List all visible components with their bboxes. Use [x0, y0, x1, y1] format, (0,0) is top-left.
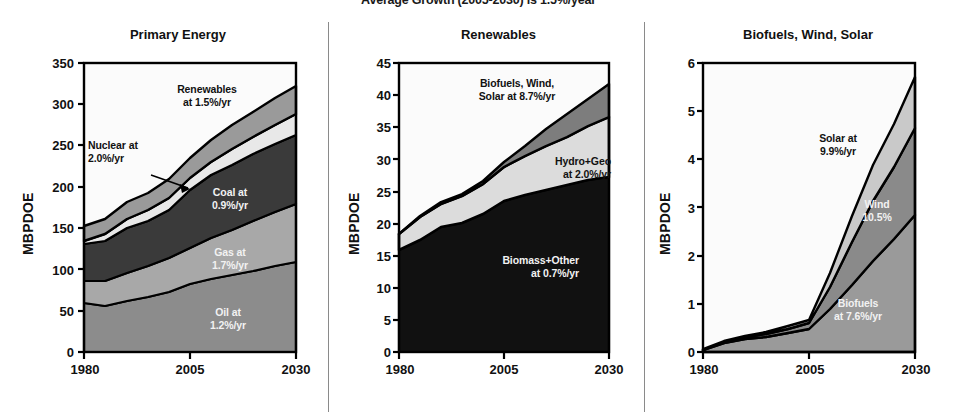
- plot-area-primary-energy: [0, 0, 328, 418]
- panel-primary-energy: Primary Energy MBPDOE 0 50 100 150 200 2…: [0, 0, 328, 418]
- plot-area-bws: [645, 0, 957, 418]
- annot-gas-p1: Gas at 1.7%/yr: [190, 246, 270, 271]
- annot-coal-p1: Coal at 0.9%/yr: [190, 186, 270, 211]
- annot-renewables-p1: Renewables at 1.5%/yr: [152, 83, 262, 108]
- annot-biofuels-p3: Biofuels at 7.6%/yr: [813, 297, 903, 322]
- annot-bws-p2: Biofuels, Wind, Solar at 8.7%/yr: [447, 77, 587, 102]
- panel-biofuels-wind-solar: Biofuels, Wind, Solar MBPDOE 0 1 2 3 4 5…: [645, 0, 957, 418]
- panel-renewables: Renewables MBPDOE 0 5 10 15 20 25 30 35 …: [329, 0, 644, 418]
- annot-biomass-p2: Biomass+Other at 0.7%/yr: [439, 254, 579, 279]
- plot-area-renewables: [329, 0, 644, 418]
- chart-page: Average Growth (2005-2030) is 1.5%/year …: [0, 0, 957, 418]
- annot-hydrogeo-p2: Hydro+Geo at 2.0%/yr: [489, 155, 611, 180]
- annot-oil-p1: Oil at 1.2%/yr: [188, 306, 268, 331]
- annot-solar-p3: Solar at 9.9%/yr: [800, 132, 876, 157]
- annot-wind-p3: Wind 10.5%: [848, 198, 906, 223]
- annot-nuclear-p1: Nuclear at 2.0%/yr: [88, 139, 188, 164]
